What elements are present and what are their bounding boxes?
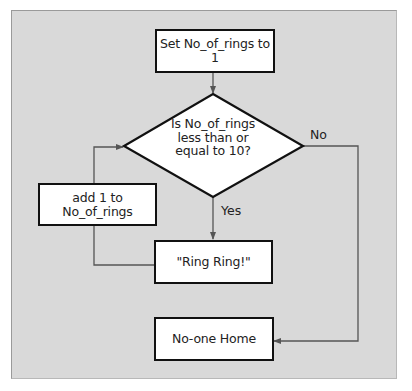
- increment-box-text-line: No_of_rings: [62, 205, 132, 219]
- edge-increment-to-decision: [94, 147, 123, 183]
- decision-text-line: less than or: [150, 131, 276, 145]
- decision-text-line: Is No_of_rings: [150, 117, 276, 131]
- start-box-text: Set No_of_rings to 1: [157, 37, 273, 65]
- start-box: Set No_of_rings to 1: [155, 29, 275, 73]
- decision-text: Is No_of_rings less than or equal to 10?: [150, 117, 276, 158]
- increment-box-text-line: add 1 to: [72, 191, 122, 205]
- edge-decision-to-end: [274, 146, 358, 341]
- end-box: No-one Home: [154, 317, 274, 361]
- end-box-text: No-one Home: [172, 332, 256, 346]
- ring-box-text: "Ring Ring!": [176, 255, 250, 269]
- edge-ring-to-increment: [94, 225, 154, 265]
- no-label: No: [310, 127, 327, 142]
- decision-text-line: equal to 10?: [150, 144, 276, 158]
- yes-label: Yes: [221, 203, 241, 218]
- ring-box: "Ring Ring!": [154, 240, 273, 284]
- increment-box: add 1 to No_of_rings: [38, 183, 157, 226]
